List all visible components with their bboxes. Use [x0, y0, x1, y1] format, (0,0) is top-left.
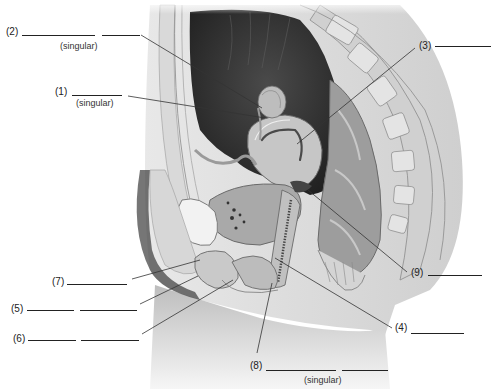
label-4-blank[interactable]	[411, 333, 464, 334]
label-6-number: (6)	[13, 333, 25, 345]
label-1-blank[interactable]	[72, 95, 122, 96]
label-9-number: (9)	[411, 267, 423, 279]
label-7-number: (7)	[52, 276, 64, 288]
label-3-blank[interactable]	[435, 46, 491, 47]
label-2-blank-b[interactable]	[102, 35, 140, 36]
label-1-note: (singular)	[76, 98, 114, 109]
label-6-blank-b[interactable]	[81, 340, 139, 341]
pelvis-illustration	[0, 0, 493, 389]
label-5-blank-a[interactable]	[27, 310, 74, 311]
label-5-blank-b[interactable]	[80, 310, 137, 311]
label-8-blank-a[interactable]	[266, 370, 336, 371]
label-4-number: (4)	[395, 322, 407, 334]
label-2-note: (singular)	[60, 41, 98, 52]
label-3-number: (3)	[419, 40, 431, 52]
label-9-blank[interactable]	[428, 275, 482, 276]
label-5-number: (5)	[11, 303, 23, 315]
label-8-number: (8)	[250, 360, 262, 372]
label-2-blank-a[interactable]	[22, 35, 95, 36]
label-6-blank-a[interactable]	[28, 340, 76, 341]
label-2-number: (2)	[6, 26, 18, 38]
label-8-note: (singular)	[304, 375, 342, 386]
label-7-blank[interactable]	[67, 284, 127, 285]
label-1-number: (1)	[55, 86, 67, 98]
label-8-blank-b[interactable]	[342, 370, 388, 371]
